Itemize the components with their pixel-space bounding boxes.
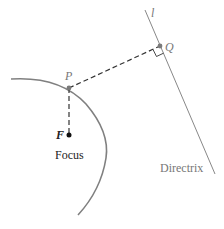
label-p: P	[64, 69, 73, 83]
parabola-curve	[11, 79, 107, 215]
segment-pq	[69, 46, 160, 88]
label-f: F	[55, 128, 64, 142]
point-f	[67, 133, 72, 138]
label-directrix: Directrix	[160, 161, 203, 175]
parabola-diagram: l Q P F Focus Directrix	[0, 0, 224, 229]
label-focus: Focus	[55, 148, 84, 162]
directrix-line	[145, 10, 215, 174]
label-line-l: l	[151, 6, 155, 20]
point-p	[67, 86, 72, 91]
label-q: Q	[165, 40, 174, 54]
point-q	[158, 44, 163, 49]
